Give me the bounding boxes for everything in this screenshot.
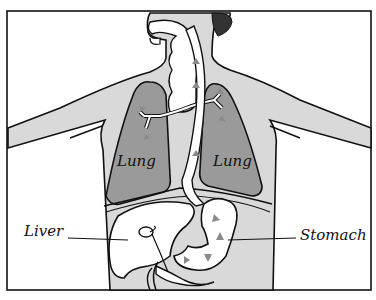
label-liver: Liver (24, 224, 63, 239)
anatomy-diagram (0, 0, 376, 300)
label-left-lung: Lung (117, 154, 156, 169)
label-right-lung: Lung (213, 154, 252, 169)
label-stomach: Stomach (300, 228, 367, 243)
